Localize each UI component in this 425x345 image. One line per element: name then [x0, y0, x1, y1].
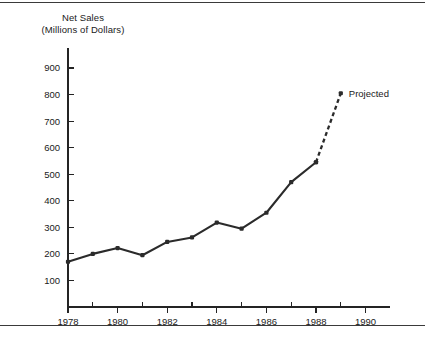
- data-point-marker: [140, 253, 144, 257]
- y-axis-tick-label: 200: [44, 248, 60, 259]
- data-point-marker: [215, 220, 219, 224]
- data-point-marker: [314, 160, 318, 164]
- y-axis-tick-label: 800: [44, 89, 60, 100]
- data-point-marker: [66, 260, 70, 264]
- annotations-group: Projected: [349, 88, 389, 99]
- data-point-marker: [190, 235, 194, 239]
- data-point-marker: [91, 252, 95, 256]
- y-axis-tick-label: 500: [44, 169, 60, 180]
- y-axis-tick-labels: 100200300400500600700800900: [44, 62, 60, 285]
- axes-group: [68, 48, 390, 307]
- x-axis-tick-label: 1982: [157, 316, 178, 327]
- x-axis-tick-label: 1990: [355, 316, 376, 327]
- data-point-marker: [116, 246, 120, 250]
- y-axis-tick-label: 400: [44, 195, 60, 206]
- y-axis-tick-label: 300: [44, 222, 60, 233]
- y-axis-tick-label: 700: [44, 116, 60, 127]
- x-axis-tick-label: 1984: [206, 316, 227, 327]
- y-axis-tick-label: 600: [44, 142, 60, 153]
- line-chart-plot: 100200300400500600700800900 197819801982…: [0, 0, 425, 345]
- data-point-markers-group: [66, 91, 343, 264]
- x-axis-tick-label: 1978: [57, 316, 78, 327]
- projected-series-line: [316, 93, 341, 162]
- data-point-marker: [264, 211, 268, 215]
- y-axis-tick-label: 900: [44, 62, 60, 73]
- x-axis-tick-label: 1986: [256, 316, 277, 327]
- data-point-marker: [165, 240, 169, 244]
- y-axis-tick-label: 100: [44, 275, 60, 286]
- x-axis-tick-label: 1980: [107, 316, 128, 327]
- x-axis-tick-labels: 1978198019821984198619881990: [57, 316, 376, 327]
- data-point-marker: [339, 91, 343, 95]
- x-axis-tick-label: 1988: [305, 316, 326, 327]
- actual-series-line: [68, 162, 316, 262]
- figure-container: Net Sales (Millions of Dollars) 10020030…: [0, 0, 425, 345]
- ticks-group: [68, 68, 366, 313]
- data-point-marker: [289, 180, 293, 184]
- data-series-group: [68, 93, 341, 262]
- data-point-marker: [240, 227, 244, 231]
- projected-annotation-label: Projected: [349, 88, 389, 99]
